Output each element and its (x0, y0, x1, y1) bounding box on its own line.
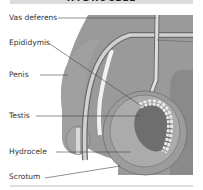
label-penis: Penis (9, 70, 29, 79)
label-vas-deferens: Vas deferens (9, 13, 57, 22)
hydrocele-illustration (0, 0, 203, 190)
label-hydrocele: Hydrocele (9, 147, 47, 156)
label-scrotum: Scrotum (9, 172, 40, 181)
leader-scrotum (45, 166, 120, 178)
label-testis: Testis (9, 111, 30, 120)
label-epididymis: Epididymis (9, 38, 50, 47)
bottom-divider (10, 185, 193, 187)
